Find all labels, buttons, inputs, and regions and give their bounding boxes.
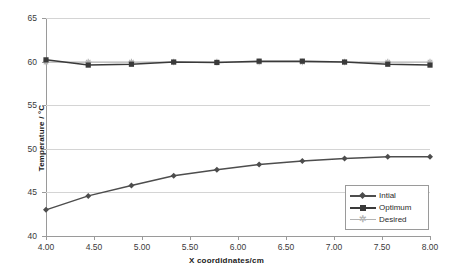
marker-diamond [342,155,348,161]
marker-square [342,59,347,64]
legend-label: Desired [379,215,407,224]
x-axis-tick-label: 7.50 [362,242,402,252]
y-axis-tick-label: 55 [11,100,37,110]
marker-diamond [299,158,305,164]
x-axis-tick [142,236,143,240]
x-axis-tick [382,236,383,240]
y-axis-title: Temperature / °C [37,104,46,171]
marker-diamond [214,167,220,173]
legend-item-desired[interactable]: ✲Desired [350,214,424,225]
y-axis-tick-label: 45 [11,187,37,197]
chart-legend[interactable]: IntialOptimum✲Desired [345,185,429,230]
x-axis-tick [286,236,287,240]
x-axis-tick [238,236,239,240]
x-axis-tick [430,236,431,240]
y-axis-tick-label: 50 [11,144,37,154]
x-axis-title: X coordidnates/cm [0,256,453,265]
marker-square [43,57,48,62]
marker-square [300,59,305,64]
marker-diamond [171,173,177,179]
x-axis-tick-label: 5.00 [122,242,162,252]
x-axis-tick-label: 5.50 [170,242,210,252]
marker-square [427,62,432,67]
legend-item-intial[interactable]: Intial [350,190,424,201]
chart-container: Temperature / °C IntialOptimum✲Desired 4… [0,0,453,275]
x-axis-tick-label: 4.00 [26,242,66,252]
x-axis-tick [46,236,47,240]
x-axis-tick-label: 7.00 [314,242,354,252]
legend-item-optimum[interactable]: Optimum [350,202,424,213]
x-axis-tick-label: 6.00 [218,242,258,252]
marker-diamond [128,182,134,188]
x-axis-tick-label: 8.00 [410,242,450,252]
x-axis-tick [94,236,95,240]
marker-square [171,59,176,64]
x-axis-tick [334,236,335,240]
x-axis-tick-label: 6.50 [266,242,306,252]
marker-square [86,62,91,67]
x-axis-tick-label: 4.50 [74,242,114,252]
marker-diamond [85,193,91,199]
legend-marker-square-icon [350,202,376,213]
y-axis-tick-label: 60 [11,57,37,67]
x-axis-tick [190,236,191,240]
legend-marker-asterisk-icon: ✲ [350,214,376,225]
legend-marker-diamond-icon [350,190,376,201]
marker-square [214,60,219,65]
y-axis-tick-label: 65 [11,13,37,23]
plot-area: IntialOptimum✲Desired [46,18,430,236]
marker-diamond [385,154,391,160]
y-axis-tick-label: 40 [11,231,37,241]
marker-diamond [256,161,262,167]
marker-diamond [43,207,49,213]
marker-square [257,59,262,64]
legend-label: Intial [379,191,396,200]
marker-square [385,62,390,67]
marker-diamond [427,154,433,160]
legend-label: Optimum [379,203,411,212]
marker-square [129,62,134,67]
